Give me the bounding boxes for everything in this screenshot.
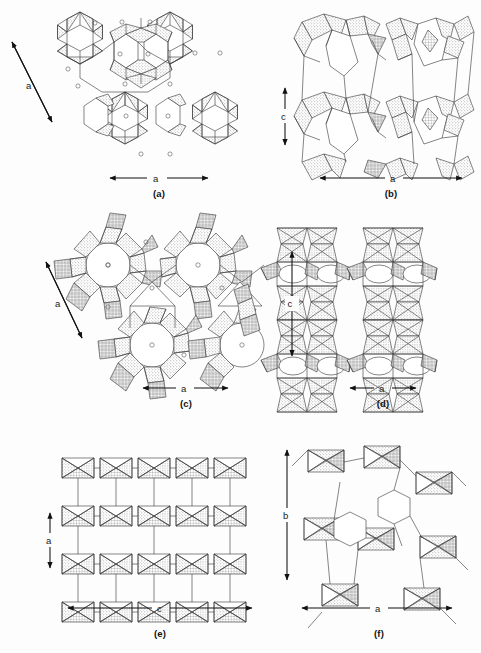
figure-root: a a (a) bbox=[0, 0, 481, 653]
panel-d-vertical-axis-label: c bbox=[288, 298, 293, 309]
panel-a-diagonal-axis-label: a bbox=[26, 80, 32, 91]
panel-f-vertical-axis: b bbox=[281, 450, 294, 580]
panel-d-graphic: c a bbox=[240, 210, 481, 420]
panel-c-caption: (c) bbox=[156, 398, 216, 409]
panel-e-caption: (e) bbox=[130, 628, 190, 639]
panel-b-vertical-axis-label: c bbox=[281, 111, 286, 122]
panel-d-horizontal-axis-label: a bbox=[379, 383, 385, 394]
panel-f-horizontal-axis-label: a bbox=[375, 603, 381, 614]
panel-c-horizontal-axis-label: a bbox=[181, 383, 187, 394]
panel-a-graphic: a a bbox=[0, 0, 240, 210]
panel-e-horizontal-axis-label: c bbox=[157, 603, 162, 614]
panel-c: a a bbox=[0, 210, 240, 420]
panel-a-center-band bbox=[110, 18, 172, 88]
panel-e-framework bbox=[62, 458, 246, 622]
panel-a-horizontal-axis: a bbox=[110, 173, 208, 184]
panel-f-vertical-axis-label: b bbox=[283, 510, 288, 521]
panel-d-caption: (d) bbox=[353, 398, 413, 409]
panel-a-framework bbox=[57, 12, 238, 156]
panel-e-vertical-axis: a bbox=[44, 513, 57, 568]
panel-a-caption: (a) bbox=[129, 188, 189, 199]
panel-f: b a bbox=[280, 420, 481, 653]
panel-b-horizontal-axis-label: a bbox=[390, 173, 396, 184]
panel-a-diagonal-axis: a bbox=[12, 42, 52, 122]
panel-e: a c bbox=[0, 420, 290, 653]
panel-a-horizontal-axis-label: a bbox=[153, 173, 159, 184]
panel-a: a a bbox=[0, 0, 240, 210]
panel-e-vertical-axis-label: a bbox=[46, 535, 52, 546]
panel-f-caption: (f) bbox=[349, 628, 409, 639]
panel-b-framework bbox=[294, 14, 474, 180]
panel-b-caption: (b) bbox=[361, 188, 421, 199]
panel-f-graphic: b a bbox=[280, 420, 481, 653]
panel-b: c a bbox=[240, 0, 481, 210]
panel-d: c a bbox=[240, 210, 481, 420]
panel-d-framework bbox=[261, 228, 437, 412]
panel-c-diagonal-axis-label: a bbox=[55, 298, 61, 309]
panel-b-vertical-axis: c bbox=[279, 88, 292, 145]
panel-c-graphic: a a bbox=[0, 210, 240, 420]
panel-c-framework bbox=[54, 213, 264, 399]
panel-e-graphic: a c bbox=[0, 420, 290, 653]
panel-b-graphic: c a bbox=[240, 0, 481, 210]
panel-f-hex-ring bbox=[378, 490, 410, 524]
panel-f-framework bbox=[292, 446, 468, 628]
